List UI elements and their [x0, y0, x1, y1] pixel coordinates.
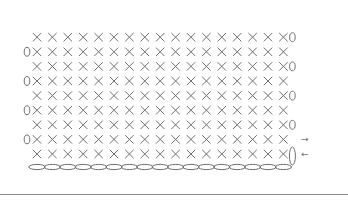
chain-stitch-icon — [198, 164, 214, 169]
single-crochet-symbol — [141, 48, 149, 56]
single-crochet-symbol — [279, 121, 287, 129]
single-crochet-symbol — [202, 91, 210, 99]
single-crochet-symbol — [156, 91, 164, 99]
foundation-chain — [29, 164, 292, 169]
single-crochet-symbol — [48, 77, 56, 85]
single-crochet-symbol — [156, 62, 164, 70]
single-crochet-symbol — [64, 121, 72, 129]
single-crochet-symbol — [279, 48, 287, 56]
single-crochet-symbol — [33, 91, 41, 99]
stitch-row — [24, 47, 287, 56]
single-crochet-symbol — [79, 106, 87, 114]
single-crochet-symbol — [187, 121, 195, 129]
single-crochet-symbol — [264, 77, 272, 85]
single-crochet-symbol — [94, 77, 102, 85]
single-crochet-symbol — [156, 106, 164, 114]
single-crochet-symbol — [110, 77, 118, 85]
chain-stitch-icon — [44, 164, 60, 169]
single-crochet-symbol — [187, 106, 195, 114]
single-crochet-symbol — [48, 62, 56, 70]
single-crochet-symbol — [64, 77, 72, 85]
single-crochet-symbol — [110, 106, 118, 114]
single-crochet-symbol — [171, 62, 179, 70]
single-crochet-symbol — [94, 121, 102, 129]
single-crochet-symbol — [171, 48, 179, 56]
single-crochet-symbol — [264, 33, 272, 41]
single-crochet-symbol — [233, 33, 241, 41]
single-crochet-symbol — [64, 48, 72, 56]
single-crochet-symbol — [233, 121, 241, 129]
stitch-row — [24, 77, 287, 86]
single-crochet-symbol — [264, 121, 272, 129]
single-crochet-symbol — [48, 121, 56, 129]
single-crochet-symbol — [218, 121, 226, 129]
stitch-row — [24, 135, 287, 144]
single-crochet-symbol — [171, 121, 179, 129]
stitch-row — [24, 106, 287, 115]
turning-chain-icon — [24, 47, 30, 56]
single-crochet-symbol — [279, 77, 287, 85]
single-crochet-symbol — [156, 77, 164, 85]
single-crochet-symbol — [79, 91, 87, 99]
single-crochet-symbol — [33, 77, 41, 85]
single-crochet-symbol — [94, 135, 102, 143]
turning-chain-icon — [24, 77, 30, 86]
chain-stitch-icon — [214, 164, 230, 169]
single-crochet-symbol — [202, 121, 210, 129]
row-markers: ←→ — [301, 134, 309, 159]
single-crochet-symbol — [79, 77, 87, 85]
single-crochet-symbol — [33, 33, 41, 41]
single-crochet-symbol — [48, 106, 56, 114]
stitch-row — [33, 91, 295, 100]
single-crochet-symbol — [218, 150, 226, 158]
single-crochet-symbol — [79, 121, 87, 129]
turning-chain-icon — [290, 120, 296, 129]
turning-chain-icon — [289, 147, 295, 165]
chain-stitch-icon — [275, 164, 291, 169]
chain-stitch-icon — [75, 164, 91, 169]
single-crochet-symbol — [248, 91, 256, 99]
single-crochet-symbol — [48, 150, 56, 158]
single-crochet-symbol — [233, 91, 241, 99]
single-crochet-symbol — [171, 135, 179, 143]
single-crochet-symbol — [64, 135, 72, 143]
single-crochet-symbol — [141, 62, 149, 70]
arrow-left-icon: ← — [301, 149, 309, 159]
turning-chain-icon — [290, 91, 296, 100]
single-crochet-symbol — [187, 62, 195, 70]
stitch-row — [33, 62, 295, 71]
single-crochet-symbol — [279, 135, 287, 143]
single-crochet-symbol — [94, 106, 102, 114]
single-crochet-symbol — [48, 48, 56, 56]
single-crochet-symbol — [94, 91, 102, 99]
chain-stitch-icon — [167, 164, 183, 169]
single-crochet-symbol — [125, 150, 133, 158]
single-crochet-symbol — [202, 150, 210, 158]
single-crochet-symbol — [94, 48, 102, 56]
single-crochet-symbol — [141, 106, 149, 114]
single-crochet-symbol — [156, 150, 164, 158]
single-crochet-symbol — [171, 150, 179, 158]
single-crochet-symbol — [264, 48, 272, 56]
single-crochet-symbol — [248, 135, 256, 143]
single-crochet-symbol — [156, 121, 164, 129]
stitch-rows — [24, 33, 295, 165]
single-crochet-symbol — [125, 121, 133, 129]
single-crochet-symbol — [48, 135, 56, 143]
single-crochet-symbol — [64, 33, 72, 41]
single-crochet-symbol — [279, 62, 287, 70]
single-crochet-symbol — [233, 62, 241, 70]
single-crochet-symbol — [171, 91, 179, 99]
single-crochet-symbol — [187, 91, 195, 99]
single-crochet-symbol — [141, 121, 149, 129]
single-crochet-symbol — [248, 33, 256, 41]
single-crochet-symbol — [141, 91, 149, 99]
single-crochet-symbol — [187, 150, 195, 158]
single-crochet-symbol — [233, 106, 241, 114]
single-crochet-symbol — [125, 48, 133, 56]
single-crochet-symbol — [94, 33, 102, 41]
single-crochet-symbol — [171, 33, 179, 41]
single-crochet-symbol — [64, 106, 72, 114]
single-crochet-symbol — [79, 135, 87, 143]
turning-chain-icon — [24, 135, 30, 144]
